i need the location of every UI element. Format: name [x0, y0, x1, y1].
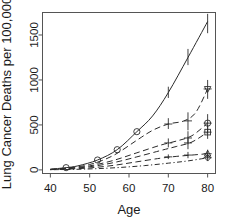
x-tick-label: 70	[162, 182, 175, 194]
y-axis-label: Lung Cancer Deaths per 100,000	[0, 0, 14, 189]
x-tick-label: 40	[44, 182, 57, 194]
y-tick-label: 1500	[29, 22, 41, 48]
x-tick-label: 50	[83, 182, 96, 194]
x-axis-label: Age	[117, 202, 140, 217]
lung-cancer-age-line-chart: 4050607080 050010001500 Age Lung Cancer …	[0, 0, 243, 222]
y-tick-label: 1000	[29, 67, 41, 93]
x-tick-label: 60	[123, 182, 136, 194]
chart-figure: 4050607080 050010001500 Age Lung Cancer …	[0, 0, 243, 222]
y-tick-label: 500	[29, 115, 41, 134]
y-tick-label: 0	[29, 167, 41, 173]
x-tick-label: 80	[201, 182, 214, 194]
